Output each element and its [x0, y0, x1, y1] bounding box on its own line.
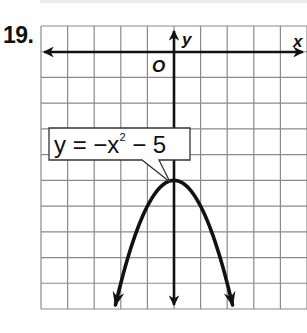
equation-suffix: − 5 — [126, 131, 167, 158]
coordinate-graph: y x O y = −x2 − 5 — [0, 0, 307, 333]
origin-label: O — [152, 57, 165, 76]
equation-callout: y = −x2 − 5 — [49, 128, 190, 182]
y-axis-label: y — [181, 30, 193, 49]
x-axis-label: x — [292, 32, 304, 51]
equation-text: y = −x2 − 5 — [54, 131, 166, 158]
equation-prefix: y = −x — [54, 131, 119, 158]
